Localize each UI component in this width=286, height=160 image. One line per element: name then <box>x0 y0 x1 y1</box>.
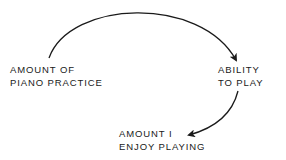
node-amount-i-enjoy: AMOUNT I ENJOY PLAYING <box>119 127 205 153</box>
node-ability-line2: TO PLAY <box>218 76 264 89</box>
node-amount-of-practice: AMOUNT OF PIANO PRACTICE <box>10 63 103 89</box>
node-practice-line2: PIANO PRACTICE <box>10 76 103 89</box>
arrow-practice-to-ability <box>49 13 236 60</box>
node-enjoy-line1: AMOUNT I <box>119 127 205 140</box>
node-ability-line1: ABILITY <box>218 63 264 76</box>
node-enjoy-line2: ENJOY PLAYING <box>119 140 205 153</box>
node-ability-to-play: ABILITY TO PLAY <box>218 63 264 89</box>
node-practice-line1: AMOUNT OF <box>10 63 103 76</box>
